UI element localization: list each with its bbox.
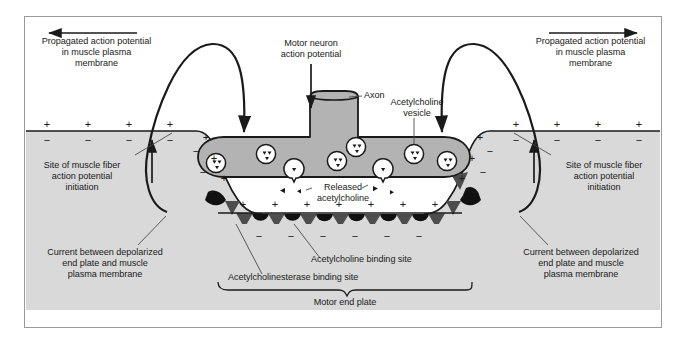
- svg-text:+: +: [459, 172, 465, 184]
- vesicle: [256, 144, 275, 163]
- vesicle: [437, 151, 456, 170]
- svg-text:+: +: [636, 118, 642, 130]
- figure-canvas: ++ ++ −− −− +− +− +− ++ ++ ++ + −−: [0, 0, 686, 345]
- label-released-acetylcholine: Released acetylcholine: [305, 182, 381, 204]
- svg-text:+: +: [240, 198, 246, 210]
- svg-text:−: −: [352, 230, 358, 242]
- svg-text:−: −: [288, 230, 294, 242]
- svg-text:−: −: [44, 134, 50, 146]
- label-current-left: Current between depolarized end plate an…: [28, 247, 182, 281]
- vesicle: [327, 151, 346, 170]
- svg-text:+: +: [477, 131, 483, 143]
- svg-text:−: −: [200, 166, 206, 178]
- vesicle: [404, 144, 423, 163]
- svg-text:−: −: [126, 134, 132, 146]
- label-motor-neuron-action-potential: Motor neuron action potential: [255, 38, 367, 60]
- svg-text:−: −: [320, 230, 326, 242]
- fusing-vesicle: [373, 159, 393, 182]
- svg-text:+: +: [203, 131, 209, 143]
- svg-text:+: +: [595, 118, 601, 130]
- label-propagated-left: Propagated action potential in muscle pl…: [14, 36, 179, 70]
- svg-text:+: +: [400, 198, 406, 210]
- svg-text:−: −: [487, 145, 493, 157]
- svg-text:−: −: [636, 134, 642, 146]
- svg-text:−: −: [256, 230, 262, 242]
- svg-text:−: −: [193, 145, 199, 157]
- label-propagated-right: Propagated action potential in muscle pl…: [508, 36, 673, 70]
- svg-text:+: +: [211, 152, 217, 164]
- svg-text:+: +: [126, 118, 132, 130]
- vesicle: [346, 137, 365, 156]
- svg-text:−: −: [554, 134, 560, 146]
- svg-text:+: +: [221, 172, 227, 184]
- label-motor-end-plate: Motor end plate: [297, 297, 393, 308]
- label-current-right: Current between depolarized end plate an…: [504, 247, 658, 281]
- svg-text:+: +: [432, 198, 438, 210]
- svg-text:−: −: [416, 230, 422, 242]
- svg-text:+: +: [44, 118, 50, 130]
- svg-text:+: +: [513, 118, 519, 130]
- label-site-initiation-right: Site of muscle fiber action potential in…: [548, 160, 660, 194]
- svg-text:+: +: [469, 152, 475, 164]
- svg-text:−: −: [384, 230, 390, 242]
- svg-text:+: +: [167, 118, 173, 130]
- svg-text:+: +: [554, 118, 560, 130]
- svg-text:−: −: [480, 166, 486, 178]
- label-acetylcholine-binding-site: Acetylcholine binding site: [311, 254, 461, 265]
- svg-text:−: −: [595, 134, 601, 146]
- label-site-initiation-left: Site of muscle fiber action potential in…: [26, 160, 138, 194]
- svg-text:−: −: [208, 186, 214, 198]
- svg-text:+: +: [272, 198, 278, 210]
- svg-text:−: −: [85, 134, 91, 146]
- fusing-vesicle: [284, 159, 304, 182]
- svg-text:+: +: [85, 118, 91, 130]
- label-acetylcholine-vesicle: Acetylcholine vesicle: [378, 97, 456, 119]
- svg-text:−: −: [472, 186, 478, 198]
- label-acetylcholinesterase-binding-site: Acetylcholinesterase binding site: [228, 272, 418, 283]
